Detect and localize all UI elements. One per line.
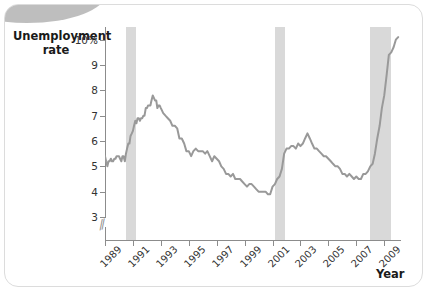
y-tick-label: 6 bbox=[91, 135, 98, 147]
chart-card: Unemployment rate ⁄⁄ 345678910% 19891991… bbox=[4, 4, 423, 287]
decorative-arc bbox=[4, 4, 107, 23]
x-tick-label: 2005 bbox=[321, 244, 347, 270]
plot-area: ⁄⁄ 345678910% 19891991199319951997199920… bbox=[105, 27, 401, 239]
x-axis-title: Year bbox=[376, 267, 405, 281]
y-tick-label: 3 bbox=[91, 211, 98, 223]
x-tick-label: 1997 bbox=[210, 244, 236, 270]
y-tick-label: 9 bbox=[91, 59, 98, 71]
y-tick-label: 4 bbox=[91, 186, 98, 198]
x-tick-label: 2001 bbox=[265, 244, 291, 270]
x-tick-label: 1993 bbox=[154, 244, 180, 270]
y-tick-label: 5 bbox=[91, 160, 98, 172]
y-tick-label: 10% bbox=[75, 34, 98, 46]
x-tick-label: 1989 bbox=[98, 244, 124, 270]
unemployment-line-path bbox=[105, 37, 398, 194]
y-tick-label: 7 bbox=[91, 110, 98, 122]
y-axis-title-line2: rate bbox=[43, 43, 70, 57]
x-tick-label: 1999 bbox=[238, 244, 264, 270]
x-tick-label: 2009 bbox=[377, 244, 403, 270]
unemployment-line bbox=[105, 27, 401, 241]
x-tick-label: 2003 bbox=[293, 244, 319, 270]
x-tick-label: 1991 bbox=[126, 244, 152, 270]
x-tick-label: 2007 bbox=[349, 244, 375, 270]
y-tick-label: 8 bbox=[91, 84, 98, 96]
x-tick-label: 1995 bbox=[182, 244, 208, 270]
